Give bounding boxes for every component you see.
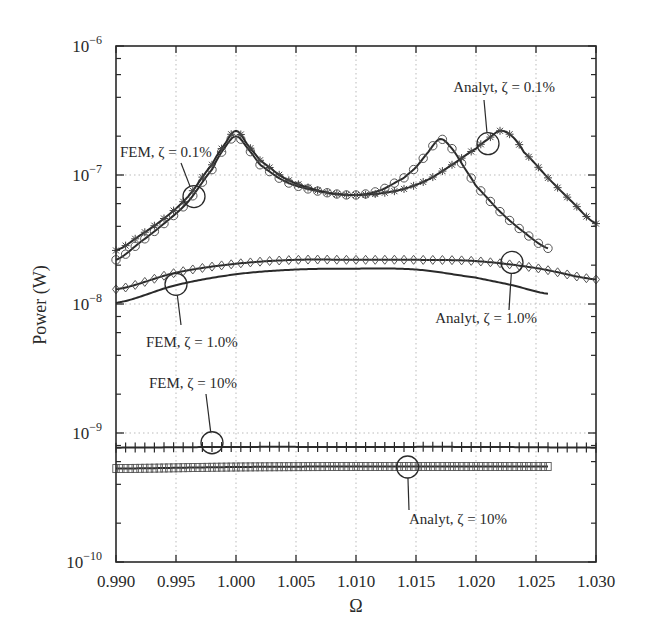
y-axis-title: Power (W)	[30, 265, 51, 344]
marker-star	[304, 184, 312, 192]
callout-leader	[484, 100, 487, 133]
marker-star	[563, 193, 571, 201]
marker-star	[160, 215, 168, 223]
marker-star	[227, 130, 235, 138]
y-tick-label: 10−10	[66, 549, 102, 572]
series-line	[116, 269, 548, 303]
marker-star	[314, 186, 322, 194]
x-tick-label: 1.000	[217, 572, 255, 591]
marker-star	[400, 185, 408, 193]
y-tick-label: 10−6	[72, 33, 102, 56]
callout-label: FEM, ζ = 10%	[149, 375, 237, 391]
callout-leader	[206, 394, 211, 432]
marker-star	[410, 182, 418, 190]
marker-star	[256, 156, 264, 164]
marker-star	[429, 173, 437, 181]
marker-star	[438, 167, 446, 175]
marker-star	[515, 141, 523, 149]
marker-star	[342, 191, 350, 199]
power-vs-omega-chart: 0.9900.9951.0001.0051.0101.0151.0201.025…	[0, 0, 646, 644]
marker-star	[448, 161, 456, 169]
marker-star	[582, 213, 590, 221]
marker-star	[218, 145, 226, 153]
marker-circle	[544, 244, 552, 252]
marker-star	[525, 153, 533, 161]
callout-label: Analyt, ζ = 0.1%	[453, 79, 555, 95]
marker-star	[506, 130, 514, 138]
callout-leader	[177, 295, 181, 325]
marker-star	[150, 222, 158, 230]
x-tick-label: 1.015	[397, 572, 435, 591]
marker-star	[208, 161, 216, 169]
series-line	[116, 466, 548, 468]
marker-star	[458, 154, 466, 162]
marker-star	[237, 130, 245, 138]
callout-label: Analyt, ζ = 1.0%	[435, 310, 537, 326]
x-tick-label: 1.020	[457, 572, 495, 591]
marker-star	[285, 176, 293, 184]
x-tick-label: 1.005	[277, 572, 315, 591]
series-plus	[116, 442, 596, 453]
callout-annotations: FEM, ζ = 0.1%Analyt, ζ = 0.1%FEM, ζ = 1.…	[120, 79, 555, 527]
x-tick-label: 1.030	[577, 572, 615, 591]
marker-star	[544, 174, 552, 182]
marker-star	[141, 228, 149, 236]
marker-star	[467, 147, 475, 155]
marker-star	[198, 173, 206, 181]
marker-star	[390, 187, 398, 195]
marker-star	[266, 164, 274, 172]
x-tick-label: 0.995	[157, 572, 195, 591]
marker-star	[534, 163, 542, 171]
marker-star	[352, 191, 360, 199]
marker-star	[170, 207, 178, 215]
marker-star	[323, 189, 331, 197]
x-tick-label: 1.025	[517, 572, 555, 591]
marker-star	[554, 184, 562, 192]
marker-star	[381, 189, 389, 197]
y-tick-label: 10−8	[72, 291, 102, 314]
callout-label: FEM, ζ = 0.1%	[120, 144, 212, 160]
grid-lines	[116, 46, 596, 562]
x-tick-label: 0.990	[97, 572, 135, 591]
marker-star	[246, 144, 254, 152]
marker-star	[294, 180, 302, 188]
marker-star	[275, 171, 283, 179]
y-tick-label: 10−9	[72, 420, 102, 443]
marker-star	[189, 187, 197, 195]
marker-star	[122, 242, 130, 250]
marker-star	[573, 203, 581, 211]
callout-leader	[509, 273, 511, 310]
series-square	[113, 462, 551, 472]
marker-star	[419, 178, 427, 186]
x-tick-label: 1.010	[337, 572, 375, 591]
marker-star	[496, 127, 504, 135]
marker-star	[371, 190, 379, 198]
marker-star	[333, 190, 341, 198]
callout-label: FEM, ζ = 1.0%	[146, 334, 238, 350]
y-tick-label: 10−7	[72, 162, 102, 185]
y-axis-ticks: 10−610−710−810−910−10	[66, 33, 596, 572]
x-axis-title: Ω	[349, 596, 362, 616]
callout-label: Analyt, ζ = 10%	[409, 511, 507, 527]
marker-star	[362, 191, 370, 199]
callout-leader	[408, 478, 409, 510]
marker-star	[131, 235, 139, 243]
series-none	[116, 269, 548, 303]
